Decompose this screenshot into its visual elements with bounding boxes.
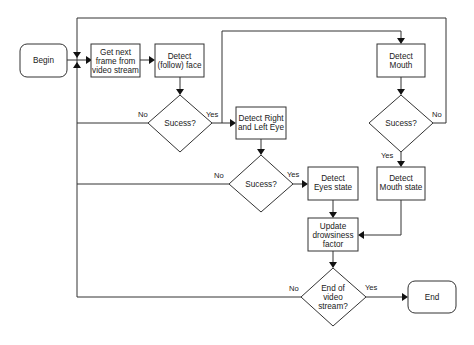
node-detect-mouth-line1: Detect	[389, 52, 413, 61]
node-eyes-success-label: Sucess?	[245, 180, 277, 189]
arrow-down-icon	[397, 89, 405, 95]
arrow-down-icon	[73, 52, 81, 58]
node-detect-face-line1: Detect	[168, 52, 192, 61]
label-mouth-no: No	[432, 110, 442, 119]
node-detect-eyes-line1: Detect Right	[238, 114, 284, 123]
node-eyes-success[interactable]: Sucess?	[229, 155, 293, 212]
node-end-of-stream-line3: stream?	[318, 302, 348, 311]
node-mouth-success-label: Sucess?	[385, 119, 417, 128]
arrow-down-icon	[257, 149, 265, 155]
node-detect-mouth-line2: Mouth	[390, 61, 413, 70]
node-update-drowsiness-line3: factor	[323, 240, 344, 249]
label-face-no: No	[138, 110, 148, 119]
arrow-right-icon	[230, 119, 236, 127]
arrow-down-icon	[397, 161, 405, 167]
arrow-right-icon	[302, 180, 308, 188]
node-begin-label: Begin	[33, 56, 54, 65]
node-detect-face[interactable]: Detect (follow) face	[155, 44, 204, 77]
node-begin[interactable]: Begin	[20, 44, 67, 77]
node-face-success-label: Sucess?	[164, 119, 196, 128]
node-end-of-stream[interactable]: End of video stream?	[301, 268, 366, 326]
label-eyes-no: No	[214, 171, 224, 180]
node-end-label: End	[425, 293, 440, 302]
label-mouth-yes: Yes	[381, 151, 394, 160]
arrow-right-icon	[149, 56, 155, 64]
node-detect-mouth[interactable]: Detect Mouth	[377, 44, 425, 77]
node-mouth-success[interactable]: Sucess?	[369, 95, 433, 152]
node-detect-eyes-line2: and Left Eye	[238, 123, 284, 132]
node-update-drowsiness-line1: Update	[320, 222, 347, 231]
node-end[interactable]: End	[408, 281, 456, 313]
node-get-frame-line3: video stream	[92, 66, 139, 75]
label-eyes-yes: Yes	[287, 170, 300, 179]
node-detect-eyes-state[interactable]: Detect Eyes state	[308, 167, 358, 200]
arrow-up-icon	[73, 62, 81, 68]
node-update-drowsiness-line2: drowsiness	[313, 231, 354, 240]
node-detect-mouth-state[interactable]: Detect Mouth state	[377, 167, 425, 200]
arrow-down-icon	[329, 262, 337, 268]
node-face-success[interactable]: Sucess?	[148, 95, 212, 152]
arrow-down-icon	[397, 38, 405, 44]
arrow-down-icon	[329, 212, 337, 218]
node-end-of-stream-line1: End of	[321, 284, 345, 293]
label-face-yes: Yes	[206, 110, 219, 119]
arrow-left-icon	[358, 231, 364, 239]
label-stream-yes: Yes	[365, 283, 378, 292]
node-detect-mouth-state-line1: Detect	[389, 174, 413, 183]
node-detect-face-line2: (follow) face	[157, 61, 202, 70]
arrow-right-icon	[402, 293, 408, 301]
edge-mouthstate-to-update	[363, 200, 401, 235]
node-get-frame-line1: Get next	[100, 48, 132, 57]
arrow-down-icon	[176, 89, 184, 95]
flowchart-canvas: Begin Get next frame from video stream D…	[0, 0, 474, 345]
node-end-of-stream-line2: video	[323, 293, 343, 302]
node-detect-eyes-state-line1: Detect	[321, 174, 345, 183]
node-detect-mouth-state-line2: Mouth state	[380, 183, 423, 192]
label-stream-no: No	[289, 284, 299, 293]
node-detect-eyes-state-line2: Eyes state	[314, 183, 353, 192]
node-get-frame-line2: frame from	[96, 57, 136, 66]
node-detect-eyes[interactable]: Detect Right and Left Eye	[236, 107, 286, 139]
node-update-drowsiness[interactable]: Update drowsiness factor	[308, 218, 358, 251]
node-get-frame[interactable]: Get next frame from video stream	[91, 44, 140, 77]
